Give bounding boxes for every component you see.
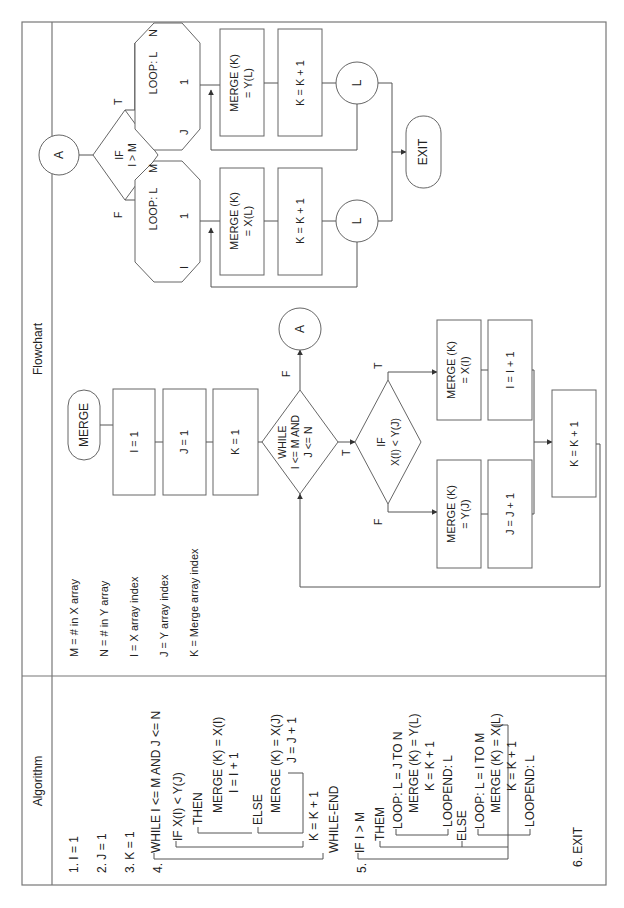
init-k-label: K = 1: [229, 429, 241, 455]
if-i-true-label: T: [112, 98, 124, 105]
flowchart-remainder: A IF I > M T LOOP: L J 1 N F LOOP: L I 1…: [39, 23, 441, 287]
merge-xl-line-1: MERGE (K): [228, 192, 240, 250]
document-canvas: Algorithm Flowchart 1. I = 1 2. J = 1 3.…: [0, 0, 624, 908]
while-true-label: T: [340, 449, 352, 456]
algo-step-5-number: 5.: [355, 863, 369, 873]
merge-x-line-1: MERGE (K): [445, 341, 457, 399]
while-line-3: J <= N: [302, 427, 314, 458]
algo-step-4-while: WHILE I <= M AND J <= N: [149, 711, 163, 853]
algo-else: ELSE: [251, 794, 265, 825]
algo-then-inc: I = I + 1: [227, 752, 241, 793]
loop-true-hexagon: [135, 23, 200, 150]
loop-false-step: 1: [178, 213, 190, 219]
header-algorithm: Algorithm: [31, 756, 45, 807]
inc-i-label: I = I + 1: [504, 351, 516, 388]
algo-loop2-merge: MERGE (K) = X(L): [489, 713, 503, 813]
merge-yl-line-1: MERGE (K): [228, 54, 240, 112]
inc-k-false-label: K = K + 1: [294, 198, 306, 244]
if-false-label: F: [372, 519, 384, 525]
legend-item: K = Merge array index: [188, 548, 200, 657]
if-bracket: [176, 841, 303, 847]
algo-step-4-number: 4.: [151, 863, 165, 873]
algo-them: THEM: [373, 807, 387, 841]
if-i-false-label: F: [112, 212, 124, 218]
merge-x-line-2: = X(I): [459, 356, 471, 383]
init-i-label: I = 1: [128, 431, 140, 453]
inc-j-label: J = J + 1: [504, 493, 516, 535]
inc-k-label: K = K + 1: [568, 421, 580, 467]
while-bracket: [154, 853, 323, 859]
algo-step-3: 3. K = 1: [123, 831, 137, 873]
variable-legend: M = # in X array N = # in Y array I = X …: [68, 548, 200, 657]
while-false-label: F: [280, 371, 292, 377]
legend-item: I = X array index: [128, 576, 140, 657]
header-flowchart: Flowchart: [31, 322, 45, 375]
if-line-2: X(I) < Y(J): [389, 418, 401, 466]
algo-loop2: LOOP: L = I TO M: [473, 733, 487, 829]
algo-step-6: 6. EXIT: [571, 826, 585, 867]
loop-false-end: M: [147, 164, 159, 173]
algorithm-pseudocode: 1. I = 1 2. J = 1 3. K = 1 4. WHILE I <=…: [67, 711, 585, 873]
algo-while-end: WHILE-END: [327, 785, 341, 853]
loop-false-label: LOOP: L: [147, 188, 159, 231]
algo-step-2: 2. J = 1: [95, 833, 109, 873]
loop-true-end: N: [147, 29, 159, 37]
legend-item: J = Y array index: [158, 574, 170, 657]
algo-step-1: 1. I = 1: [67, 836, 81, 873]
algo-if: IF X(I) < Y(J): [171, 772, 185, 841]
init-j-label: J = 1: [178, 430, 190, 454]
rotated-page: Algorithm Flowchart 1. I = 1 2. J = 1 3.…: [22, 22, 606, 885]
loop-true-start: J: [178, 130, 190, 136]
if-true-label: T: [372, 362, 384, 369]
connector-a-entry-label: A: [52, 151, 66, 159]
merge-y-line-1: MERGE (K): [445, 485, 457, 543]
algo-loop1-inc: K = K + 1: [423, 741, 437, 791]
if-false-branch: [388, 504, 437, 512]
while-line-1: WHILE: [276, 425, 288, 458]
flowchart-merge-main: MERGE I = 1 J = 1 K = 1 WHILE I <= M AND…: [68, 308, 600, 587]
if-i-gt-m-line-1: IF: [113, 150, 125, 159]
algo-loop2-inc: K = K + 1: [505, 741, 519, 791]
loop-true-step: 1: [178, 79, 190, 85]
if-i-true-branch: [125, 43, 135, 110]
start-label: MERGE: [77, 403, 91, 447]
exit-label: EXIT: [416, 138, 430, 165]
algo-then: THEN: [191, 792, 205, 825]
exit-join-false: [378, 152, 392, 221]
algo-loop1-merge: MERGE (K) = Y(L): [407, 714, 421, 813]
loop-end-true-label: L: [350, 79, 364, 86]
while-line-2: I <= M AND: [289, 414, 301, 469]
if-decision: [355, 380, 421, 504]
algo-loop1: LOOP: L = J TO N: [391, 732, 405, 829]
algo-else-merge: MERGE (K) = X(J): [269, 714, 283, 813]
legend-item: M = # in X array: [68, 579, 80, 657]
loop-false-start: I: [178, 266, 190, 269]
if-true-branch: [388, 372, 437, 380]
algo-then-merge: MERGE (K) = X(I): [211, 717, 225, 813]
loop-false-hexagon: [135, 161, 200, 282]
if-i-gt-m-line-2: I > M: [126, 143, 138, 167]
algo-k-inc: K = K + 1: [307, 791, 321, 841]
exit-join-true: [378, 83, 392, 152]
legend-item: N = # in Y array: [98, 580, 110, 657]
algo-step-5-if: IF I > M: [353, 812, 367, 853]
merge-yl-line-2: = Y(L): [242, 68, 254, 98]
algo-loop1-end: LOOPEND: L: [441, 755, 455, 827]
loop-true-label: LOOP: L: [147, 52, 159, 95]
merge-y-line-2: = Y(J): [459, 499, 471, 528]
loop-end-false-label: L: [350, 217, 364, 224]
algo-else-2: ELSE: [455, 810, 469, 841]
algo-loop2-end: LOOPEND: L: [523, 755, 537, 827]
if-line-1: IF: [375, 437, 387, 446]
inc-k-true-label: K = K + 1: [294, 60, 306, 106]
merge-xl-line-2: = X(L): [242, 206, 254, 236]
algo-else-inc: J = J + 1: [285, 717, 299, 763]
connector-a-label: A: [293, 325, 307, 333]
